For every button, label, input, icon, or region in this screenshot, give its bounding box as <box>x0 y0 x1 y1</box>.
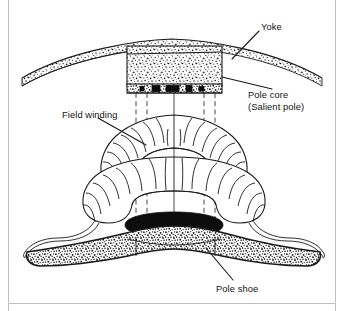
label-pole-core-line1: Pole core <box>248 90 288 100</box>
pole-shoe-part <box>20 212 326 272</box>
label-pole-shoe: Pole shoe <box>216 284 258 294</box>
leader-pole-core <box>222 77 272 89</box>
pole-core-part <box>127 46 222 93</box>
salient-pole-diagram: Yoke Pole core (Salient pole) Field wind… <box>0 0 344 311</box>
label-yoke: Yoke <box>261 22 282 32</box>
label-field-winding: Field winding <box>62 110 118 120</box>
figure-root: Yoke Pole core (Salient pole) Field wind… <box>0 0 344 311</box>
label-pole-core-line2: (Salient pole) <box>248 102 304 112</box>
